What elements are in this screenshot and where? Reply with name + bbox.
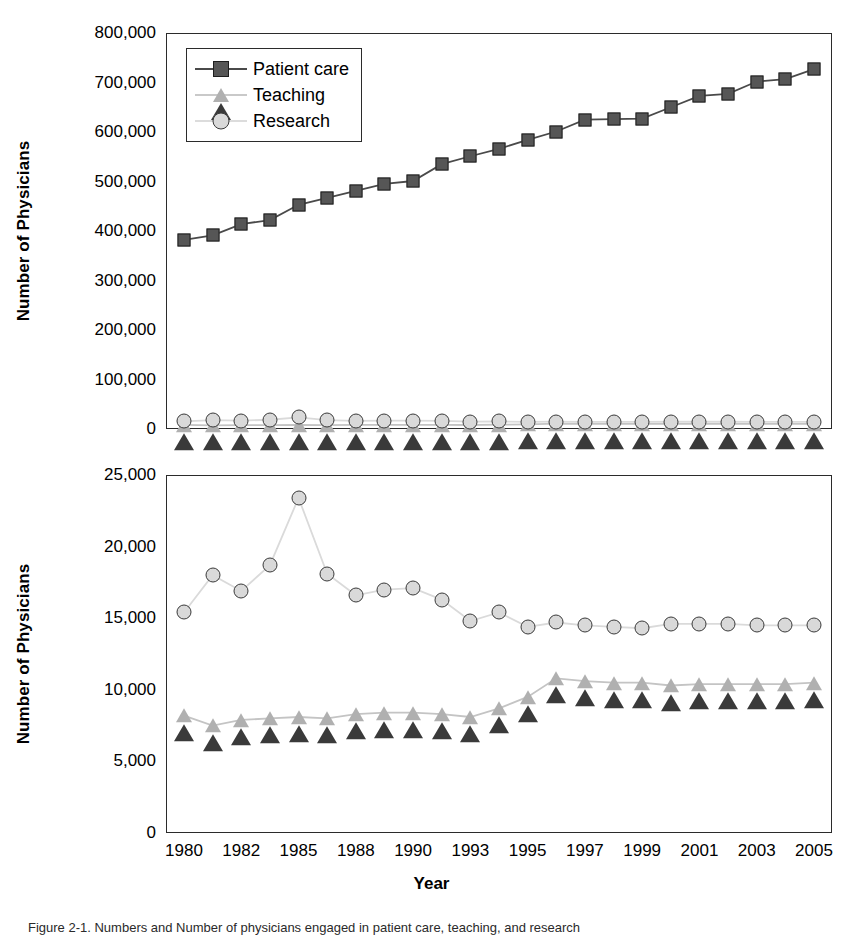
data-point-circle [320, 566, 335, 581]
circle-icon [195, 110, 247, 132]
data-point-circle [577, 414, 592, 429]
data-point-triangle [518, 688, 538, 706]
data-point-square [693, 89, 706, 102]
data-point-circle [606, 414, 621, 429]
data-point-circle [807, 414, 822, 429]
data-point-triangle [174, 707, 194, 725]
data-point-circle [520, 619, 535, 634]
data-point-circle [520, 414, 535, 429]
data-point-square [292, 198, 305, 211]
data-point-circle [663, 616, 678, 631]
data-point-square [407, 175, 420, 188]
legend-item-teaching[interactable]: Teaching [195, 82, 349, 108]
data-point-square [750, 75, 763, 88]
data-point-square [464, 150, 477, 163]
data-point-triangle [689, 675, 709, 693]
data-point-circle [377, 413, 392, 428]
data-point-circle [492, 605, 507, 620]
data-point-square [722, 87, 735, 100]
data-point-circle [348, 413, 363, 428]
data-point-circle [377, 582, 392, 597]
data-point-triangle [374, 704, 394, 722]
data-point-circle [463, 414, 478, 429]
data-point-circle [492, 414, 507, 429]
legend-item-research[interactable]: Research [195, 108, 349, 134]
data-point-circle [778, 414, 793, 429]
x-axis-title: Year [0, 874, 863, 894]
data-point-triangle [403, 704, 423, 722]
chart-top-panel: Number of Physicians 0100,000200,000300,… [0, 0, 863, 450]
x-tick-label: 1990 [394, 841, 432, 861]
data-point-triangle [489, 700, 509, 718]
data-point-triangle [575, 672, 595, 690]
data-point-triangle [546, 670, 566, 688]
data-point-circle [234, 413, 249, 428]
data-point-square [607, 113, 620, 126]
data-point-circle [291, 410, 306, 425]
figure-caption: Figure 2-1. Numbers and Number of physic… [28, 920, 838, 937]
square-icon [195, 58, 247, 80]
data-point-circle [749, 618, 764, 633]
data-point-circle [549, 615, 564, 630]
data-point-square [206, 229, 219, 242]
data-point-triangle [661, 677, 681, 695]
chart-bottom-panel: Number of Physicians 05,00010,00015,0002… [0, 450, 863, 920]
data-point-square [378, 177, 391, 190]
data-point-circle [434, 413, 449, 428]
data-point-triangle [747, 675, 767, 693]
data-point-square [521, 133, 534, 146]
triangle-icon [195, 84, 247, 106]
legend-item-patient-care[interactable]: Patient care [195, 56, 349, 82]
data-point-circle [177, 414, 192, 429]
data-point-circle [577, 618, 592, 633]
data-point-circle [406, 413, 421, 428]
figure-physician-activity: Number of Physicians 0100,000200,000300,… [0, 0, 863, 937]
data-point-square [550, 125, 563, 138]
x-tick-label: 1985 [280, 841, 318, 861]
data-point-circle [262, 412, 277, 427]
data-point-triangle [775, 675, 795, 693]
data-point-square [808, 63, 821, 76]
x-tick-label: 2005 [795, 841, 833, 861]
data-point-triangle [604, 674, 624, 692]
data-point-circle [692, 414, 707, 429]
data-point-circle [721, 616, 736, 631]
data-point-square [779, 73, 792, 86]
data-point-circle [205, 568, 220, 583]
chart-legend: Patient care Teaching Research [186, 48, 362, 142]
legend-label-research: Research [247, 111, 330, 132]
data-point-circle [348, 588, 363, 603]
series-lines-top [0, 0, 863, 450]
data-point-circle [635, 621, 650, 636]
data-point-square [578, 113, 591, 126]
data-point-square [435, 158, 448, 171]
data-point-triangle [460, 708, 480, 726]
data-point-circle [606, 619, 621, 634]
data-point-circle [291, 490, 306, 505]
data-point-triangle [231, 711, 251, 729]
data-point-square [263, 214, 276, 227]
data-point-triangle [432, 705, 452, 723]
x-tick-label: 1997 [566, 841, 604, 861]
data-point-circle [778, 618, 793, 633]
data-point-triangle [289, 708, 309, 726]
data-point-circle [234, 583, 249, 598]
x-tick-label: 1988 [337, 841, 375, 861]
x-tick-label: 1993 [451, 841, 489, 861]
x-tick-label: 1982 [222, 841, 260, 861]
data-point-triangle [718, 675, 738, 693]
data-point-triangle [632, 674, 652, 692]
x-tick-label: 1995 [509, 841, 547, 861]
data-point-triangle [317, 710, 337, 728]
x-tick-label: 2001 [681, 841, 719, 861]
data-point-square [178, 233, 191, 246]
data-point-triangle [804, 674, 824, 692]
x-tick-label: 1980 [165, 841, 203, 861]
data-point-circle [749, 414, 764, 429]
data-point-square [321, 191, 334, 204]
data-point-circle [635, 414, 650, 429]
data-point-circle [406, 581, 421, 596]
data-point-circle [434, 592, 449, 607]
data-point-square [235, 218, 248, 231]
data-point-triangle [203, 717, 223, 735]
